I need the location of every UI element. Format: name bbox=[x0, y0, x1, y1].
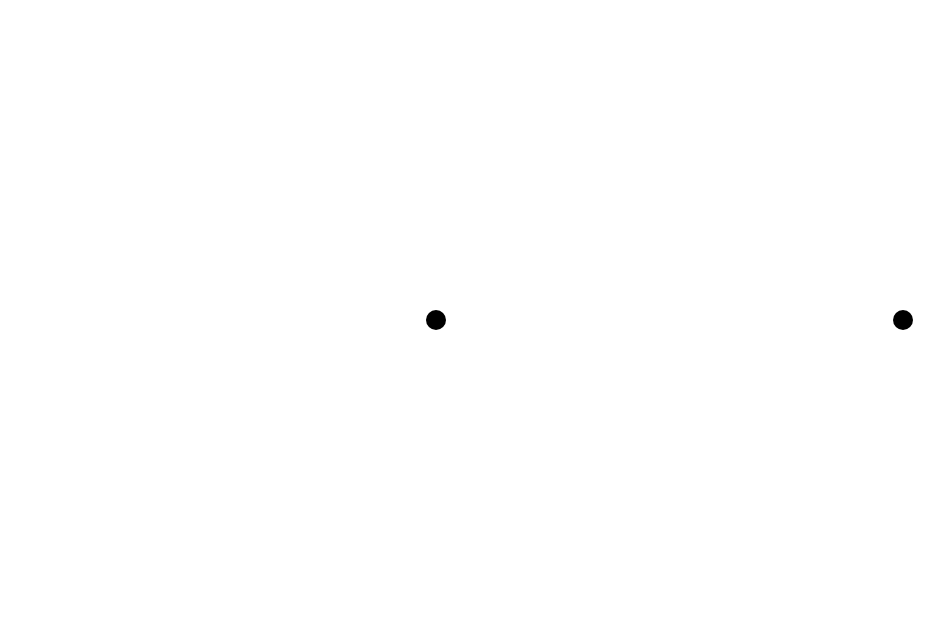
dot-left bbox=[426, 310, 446, 330]
dot-right bbox=[893, 310, 913, 330]
blank-canvas bbox=[0, 0, 940, 637]
